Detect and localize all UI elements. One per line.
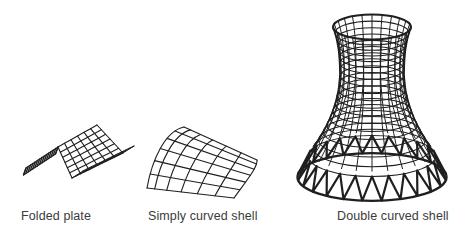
folded-plate-figure <box>24 125 135 178</box>
label-simply-curved-shell: Simply curved shell <box>148 209 258 223</box>
label-folded-plate: Folded plate <box>21 209 91 223</box>
diagram-canvas <box>0 0 463 237</box>
simply-curved-shell-figure <box>147 127 257 198</box>
shell-structure-types-diagram: Folded plate Simply curved shell Double … <box>0 0 463 237</box>
label-double-curved-shell: Double curved shell <box>337 209 449 223</box>
double-curved-shell-figure <box>298 15 447 201</box>
